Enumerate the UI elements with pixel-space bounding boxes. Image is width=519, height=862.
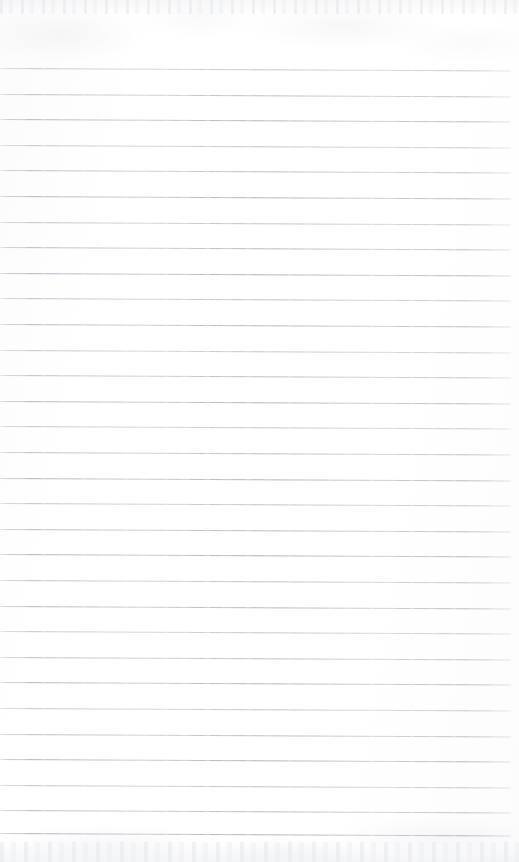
rule-line xyxy=(0,810,511,813)
rule-line xyxy=(0,529,511,532)
rule-line xyxy=(0,298,511,301)
rule-line xyxy=(0,785,511,788)
rule-line xyxy=(0,401,511,404)
rule-line xyxy=(0,682,511,685)
rule-line xyxy=(0,631,511,634)
rule-line xyxy=(0,503,511,506)
rule-line xyxy=(0,708,511,711)
rule-line xyxy=(0,68,511,71)
rule-line xyxy=(0,554,511,557)
rule-line xyxy=(0,759,511,762)
rule-line xyxy=(0,375,511,378)
rule-line xyxy=(0,222,511,225)
rule-line xyxy=(0,657,511,660)
ruled-lines-group xyxy=(0,0,519,862)
rule-line xyxy=(0,170,511,173)
rule-line xyxy=(0,606,511,609)
rule-line xyxy=(0,452,511,455)
rule-line xyxy=(0,426,511,429)
rule-line xyxy=(0,350,511,353)
rule-line xyxy=(0,580,511,583)
rule-line xyxy=(0,145,511,148)
rule-line xyxy=(0,478,511,481)
rule-line xyxy=(0,833,511,836)
rule-line xyxy=(0,94,511,97)
rule-line xyxy=(0,734,511,737)
rule-line xyxy=(0,324,511,327)
rule-line xyxy=(0,247,511,250)
scanned-page xyxy=(0,0,519,862)
rule-line xyxy=(0,196,511,199)
rule-line xyxy=(0,119,511,122)
rule-line xyxy=(0,273,511,276)
